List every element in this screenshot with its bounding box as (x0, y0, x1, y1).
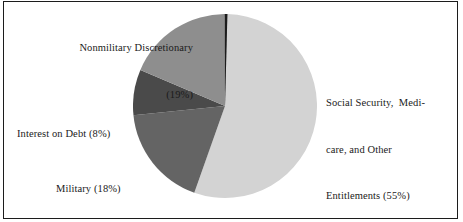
pie-label-interest-line1: Interest on Debt (8%) (17, 126, 157, 142)
pie-label-social-line3: Entitlements (55%) (326, 188, 452, 204)
figure-canvas: Nonmilitary Discretionary (19%) Interest… (0, 0, 463, 222)
pie-label-military: Military (18%) (56, 150, 168, 222)
pie-label-military-line1: Military (18%) (56, 181, 168, 197)
pie-label-social-security: Social Security, Medi- care, and Other E… (326, 64, 452, 222)
pie-label-nonmilitary-line1: Nonmilitary Discretionary (31, 40, 193, 56)
pie-label-social-line1: Social Security, Medi- (326, 95, 452, 111)
pie-label-social-line2: care, and Other (326, 142, 452, 158)
